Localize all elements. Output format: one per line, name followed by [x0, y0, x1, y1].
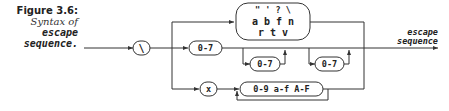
simple-escape-row2: a b f n: [252, 16, 294, 27]
hex-prefix-label: x: [206, 84, 211, 94]
octal-digit-terminal-2: 0-7: [250, 57, 280, 71]
octal-digit-label-3: 0-7: [322, 59, 337, 69]
simple-escape-terminal: " ' ? \ a b f n r t v: [236, 3, 310, 40]
simple-escape-row3: r t v: [258, 27, 288, 38]
output-label-line2: sequence: [397, 36, 438, 46]
octal-digit-terminal-1: 0-7: [189, 41, 222, 55]
backslash-label: \: [138, 43, 144, 54]
syntax-diagram: \ " ' ? \ a b f n r t v 0-7 0-7 0-7 x 0-…: [0, 0, 449, 111]
octal-digit-terminal-3: 0-7: [315, 57, 344, 71]
hex-digit-terminal: 0-9 a-f A-F: [240, 82, 323, 96]
hex-prefix-terminal: x: [200, 82, 217, 96]
octal-digit-label-1: 0-7: [198, 43, 213, 53]
simple-escape-row1: " ' ? \: [255, 5, 291, 15]
backslash-terminal: \: [133, 41, 150, 55]
octal-digit-label-2: 0-7: [257, 59, 272, 69]
hex-digit-label: 0-9 a-f A-F: [253, 84, 309, 94]
